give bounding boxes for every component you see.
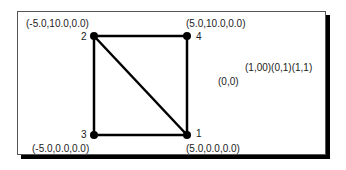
- node-1-label: 1: [196, 128, 202, 139]
- node-2-label: 2: [81, 31, 87, 42]
- uv-coords-origin: (0,0): [218, 76, 239, 87]
- node-3-coords: (-5.0,0.0,0.0): [32, 143, 89, 154]
- node-1-coords: (5.0,0.0,0.0): [186, 143, 240, 154]
- node-4-dot: [183, 32, 191, 40]
- node-3-dot: [90, 131, 98, 139]
- node-4-coords: (5.0,10.0,0.0): [186, 18, 245, 29]
- node-2-coords: (-5.0,10.0,0.0): [26, 18, 89, 29]
- node-4-label: 4: [196, 31, 202, 42]
- mesh-edges: [94, 36, 187, 135]
- uv-coords-top: (1,00)(0,1)(1,1): [245, 62, 312, 73]
- edge-2-1-diagonal: [94, 36, 187, 135]
- node-1-dot: [183, 131, 191, 139]
- node-2-dot: [90, 32, 98, 40]
- node-3-label: 3: [81, 129, 87, 140]
